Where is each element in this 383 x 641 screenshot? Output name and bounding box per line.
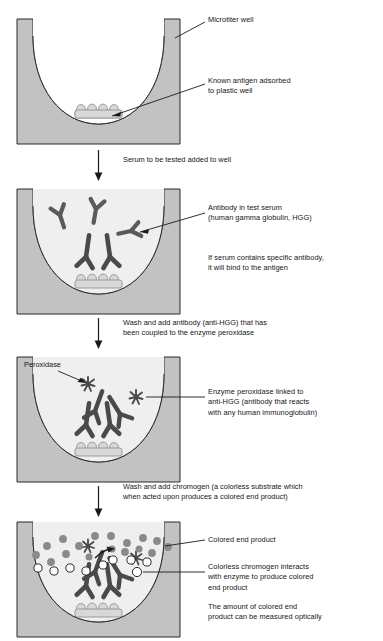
label-microtiter-well: Microtiter well (208, 15, 254, 25)
label-antibody-in-test-serum: Antibody in test serum (human gamma glob… (208, 203, 312, 224)
label-amount-measured: The amount of colored end product can be… (208, 602, 322, 623)
step-label-2: Wash and add antibody (anti-HGG) that ha… (123, 318, 267, 339)
step-label-1: Serum to be tested added to well (123, 155, 231, 165)
well-graphic-2 (0, 185, 383, 320)
label-colorless-chromogen: Colorless chromogen interacts with enzym… (208, 562, 313, 593)
label-specific-antibody-binds: If serum contains specific antibody, it … (208, 253, 324, 274)
panel-conjugate-added: Peroxidase Enzyme peroxidase linked to a… (0, 351, 383, 491)
well-graphic-4 (0, 516, 383, 641)
label-enzyme-peroxidase-linked: Enzyme peroxidase linked to anti-HGG (an… (208, 387, 317, 418)
elisa-diagram: Microtiter well Known antigen adsorbed t… (0, 0, 383, 641)
step-label-3: Wash and add chromogen (a colorless subs… (123, 482, 303, 503)
label-colored-end-product: Colored end product (208, 535, 276, 545)
well-graphic-1 (0, 0, 383, 150)
panel-chromogen-added: Colored end product Colorless chromogen … (0, 516, 383, 641)
panel-empty-well: Microtiter well Known antigen adsorbed t… (0, 0, 383, 150)
well-graphic-3 (0, 351, 383, 491)
panel-serum-added: Antibody in test serum (human gamma glob… (0, 185, 383, 320)
label-known-antigen: Known antigen adsorbed to plastic well (208, 76, 291, 97)
label-peroxidase: Peroxidase (24, 360, 61, 370)
